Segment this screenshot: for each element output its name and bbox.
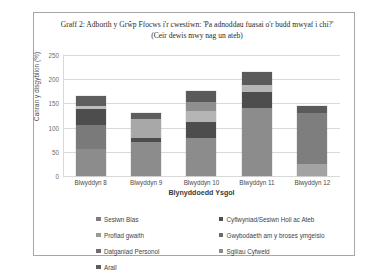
legend-label: Sesiwn Blas bbox=[104, 216, 138, 223]
bar-segment[interactable] bbox=[242, 92, 272, 108]
bar-segment[interactable] bbox=[242, 72, 272, 85]
legend-swatch-icon bbox=[219, 249, 224, 254]
stacked-bar[interactable] bbox=[297, 106, 327, 176]
x-axis-tick-label: Blwyddyn 11 bbox=[239, 179, 274, 186]
bar-series: Blwyddyn 8Blwyddyn 9Blwyddyn 10Blwyddyn … bbox=[63, 55, 340, 176]
x-axis-title: Blynyddoedd Ysgol bbox=[63, 189, 340, 197]
bar-segment[interactable] bbox=[186, 91, 216, 102]
y-axis-tick-label: 250 bbox=[48, 52, 59, 59]
bar-segment[interactable] bbox=[186, 102, 216, 110]
bar-group[interactable]: Blwyddyn 11 bbox=[229, 55, 284, 176]
y-axis-tick-label: 150 bbox=[48, 100, 59, 107]
legend-label: Cyflwyniad/Sesiwn Holi ac Ateb bbox=[227, 216, 315, 223]
legend-item[interactable]: Arall bbox=[96, 259, 219, 275]
stacked-bar[interactable] bbox=[186, 91, 216, 176]
chart-title: Graff 2: Adborth y Grŵp Ffocws i'r cwest… bbox=[54, 20, 340, 41]
x-axis-tick-label: Blwyddyn 8 bbox=[75, 179, 107, 186]
x-axis-tick-label: Blwyddyn 10 bbox=[184, 179, 220, 186]
bar-segment[interactable] bbox=[186, 122, 216, 138]
bar-group[interactable]: Blwyddyn 8 bbox=[63, 55, 118, 176]
bar-segment[interactable] bbox=[76, 109, 106, 125]
y-axis-tick-label: 50 bbox=[52, 148, 59, 155]
chart-container: Graff 2: Adborth y Grŵp Ffocws i'r cwest… bbox=[33, 12, 355, 256]
bar-segment[interactable] bbox=[242, 85, 272, 92]
stacked-bar[interactable] bbox=[242, 72, 272, 176]
x-axis-tick-label: Blwyddyn 9 bbox=[130, 179, 162, 186]
legend-item[interactable]: Sesiwn Blas bbox=[96, 211, 219, 227]
bar-segment[interactable] bbox=[242, 108, 272, 176]
plot-area: 050100150200250 Blwyddyn 8Blwyddyn 9Blwy… bbox=[63, 55, 340, 176]
legend-item[interactable]: Profiad gwaith bbox=[96, 227, 219, 243]
stacked-bar[interactable] bbox=[76, 96, 106, 176]
bar-group[interactable]: Blwyddyn 10 bbox=[174, 55, 229, 176]
x-axis-tick-label: Blwyddyn 12 bbox=[294, 179, 330, 186]
legend-swatch-icon bbox=[219, 233, 224, 238]
y-axis-title: Canran y disgyblion (%) bbox=[33, 52, 40, 121]
bar-segment[interactable] bbox=[131, 142, 161, 176]
y-axis-tick-label: 100 bbox=[48, 124, 59, 131]
legend-column-right: Cyflwyniad/Sesiwn Holi ac AtebGwybodaeth… bbox=[219, 211, 342, 275]
bar-segment[interactable] bbox=[186, 111, 216, 122]
legend-label: Sgiliau Cyfweld bbox=[227, 248, 270, 255]
legend-swatch-icon bbox=[96, 265, 101, 270]
legend-item[interactable]: Gwybodaeth am y broses ymgeisio bbox=[219, 227, 342, 243]
legend-label: Datganiad Personol bbox=[104, 248, 159, 255]
legend-swatch-icon bbox=[96, 249, 101, 254]
legend-label: Profiad gwaith bbox=[104, 232, 144, 239]
bar-group[interactable]: Blwyddyn 12 bbox=[285, 55, 340, 176]
legend-label: Arall bbox=[104, 264, 117, 271]
legend-column-left: Sesiwn BlasProfiad gwaithDatganiad Perso… bbox=[96, 211, 219, 275]
gridline bbox=[63, 176, 340, 177]
legend-swatch-icon bbox=[96, 233, 101, 238]
bar-segment[interactable] bbox=[297, 106, 327, 113]
bar-segment[interactable] bbox=[297, 113, 327, 164]
legend-item[interactable]: Cyflwyniad/Sesiwn Holi ac Ateb bbox=[219, 211, 342, 227]
y-axis-tick-label: 200 bbox=[48, 76, 59, 83]
legend-swatch-icon bbox=[219, 217, 224, 222]
legend-item[interactable]: Sgiliau Cyfweld bbox=[219, 243, 342, 259]
bar-segment[interactable] bbox=[186, 138, 216, 176]
legend-item[interactable]: Datganiad Personol bbox=[96, 243, 219, 259]
bar-segment[interactable] bbox=[76, 96, 106, 106]
bar-group[interactable]: Blwyddyn 9 bbox=[118, 55, 173, 176]
bar-segment[interactable] bbox=[131, 119, 161, 138]
stacked-bar[interactable] bbox=[131, 113, 161, 176]
legend-label: Gwybodaeth am y broses ymgeisio bbox=[227, 232, 325, 239]
bar-segment[interactable] bbox=[297, 164, 327, 176]
bar-segment[interactable] bbox=[76, 125, 106, 149]
chart-legend: Sesiwn BlasProfiad gwaithDatganiad Perso… bbox=[96, 211, 341, 275]
legend-swatch-icon bbox=[96, 217, 101, 222]
bar-segment[interactable] bbox=[76, 149, 106, 176]
y-axis-tick-label: 0 bbox=[55, 173, 59, 180]
